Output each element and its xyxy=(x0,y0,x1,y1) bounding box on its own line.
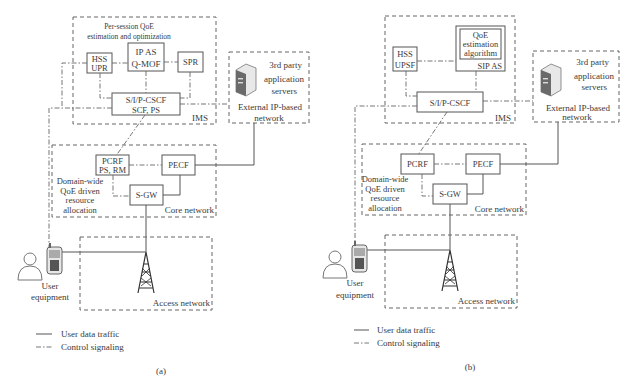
access-network-label: Access network xyxy=(458,296,516,306)
access-network-label: Access network xyxy=(153,298,211,308)
user-equipment-label-2: equipment xyxy=(31,292,69,302)
upsf-label: UPSF xyxy=(395,60,416,70)
legend-data-label: User data traffic xyxy=(377,325,435,335)
sgw-label: S-GW xyxy=(439,189,461,199)
panel-b: IMS 3rd party application servers Extern… xyxy=(323,16,619,372)
ext-label-3: servers xyxy=(272,86,298,96)
user-icon xyxy=(323,251,347,278)
ext-label-1: 3rd party xyxy=(576,57,609,67)
ims-subtitle-1: Per-session QoE xyxy=(104,22,154,31)
user-equipment-label-1: User xyxy=(347,278,364,288)
domain-wide-label-1: Domain-wide xyxy=(57,176,104,186)
ext-label-4: External IP-based xyxy=(238,102,303,112)
cell-tower-icon xyxy=(138,252,154,293)
domain-wide-label-3: resource xyxy=(371,193,400,203)
ext-label-2: application xyxy=(264,74,304,84)
ims-label: IMS xyxy=(495,113,511,123)
core-network-label: Core network xyxy=(475,204,525,214)
server-icon xyxy=(541,64,561,96)
legend-data-label: User data traffic xyxy=(61,329,119,339)
cell-tower-icon xyxy=(442,250,458,291)
domain-wide-label-4: allocation xyxy=(368,203,402,213)
caption-a: (a) xyxy=(156,366,166,376)
spr-label: SPR xyxy=(183,57,198,67)
user-equipment-label-2: equipment xyxy=(336,290,374,300)
legend-control-label: Control signaling xyxy=(61,342,124,352)
scf-ps-label: SCF, PS xyxy=(132,105,160,115)
ims-label: IMS xyxy=(192,113,208,123)
caption-b: (b) xyxy=(465,362,476,372)
ims-subtitle-2: estimation and optimization xyxy=(87,32,171,41)
server-icon xyxy=(236,64,256,96)
user-equipment-label-1: User xyxy=(42,281,59,291)
ps-rm-label: PS, RM xyxy=(99,165,126,175)
algorithm-label: algorithm xyxy=(464,48,497,58)
ext-label-1: 3rd party xyxy=(269,60,302,70)
panel-a: Per-session QoE estimation and optimizat… xyxy=(18,17,309,376)
pecf-label: PECF xyxy=(168,160,189,170)
domain-wide-label-1: Domain-wide xyxy=(362,174,409,184)
domain-wide-label-3: resource xyxy=(66,195,95,205)
ext-label-5: network xyxy=(254,113,284,123)
phone-icon xyxy=(352,241,367,272)
phone-icon xyxy=(47,243,62,274)
cscf-label: S/I/P-CSCF xyxy=(430,98,471,108)
core-network-label: Core network xyxy=(165,205,215,215)
pcrf-label: PCRF xyxy=(407,159,428,169)
ext-label-5: network xyxy=(562,112,592,122)
ext-label-2: application xyxy=(574,71,614,81)
qmof-label: Q-MOF xyxy=(131,59,160,69)
ext-label-3: servers xyxy=(582,82,608,92)
hss-label: HSS xyxy=(397,49,413,59)
legend-control-label: Control signaling xyxy=(377,338,440,348)
sip-as-label: SIP AS xyxy=(478,61,503,71)
pecf-label: PECF xyxy=(473,159,494,169)
user-icon xyxy=(18,253,42,280)
upr-label: UPR xyxy=(91,63,108,73)
cscf-label: S/I/P-CSCF xyxy=(126,95,167,105)
domain-wide-label-4: allocation xyxy=(63,205,97,215)
sgw-label: S-GW xyxy=(136,190,158,200)
ip-as-label: IP AS xyxy=(136,47,157,57)
